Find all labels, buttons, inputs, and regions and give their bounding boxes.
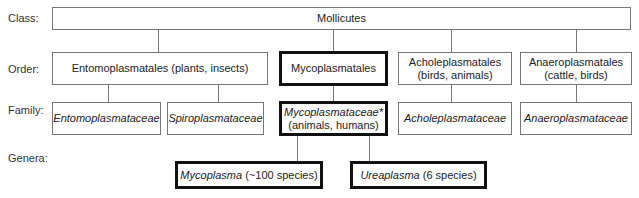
order-box-entomoplasmatales: Entomoplasmatales (plants, insects) bbox=[52, 52, 268, 85]
connector-line bbox=[576, 84, 577, 102]
rank-label-class: Class: bbox=[8, 12, 39, 24]
order-name: Acholeplasmatales bbox=[409, 56, 501, 69]
genus-name: Ureaplasma bbox=[360, 169, 419, 182]
connector-line bbox=[369, 135, 370, 162]
family-box-anaeroplasmataceae: Anaeroplasmataceae bbox=[520, 102, 632, 135]
rank-label-family: Family: bbox=[8, 104, 43, 116]
connector-line bbox=[333, 30, 334, 52]
order-hosts: (birds, animals) bbox=[417, 69, 492, 82]
class-box-mollicutes: Mollicutes bbox=[52, 7, 631, 30]
order-name: Anaeroplasmatales bbox=[529, 56, 623, 69]
connector-line bbox=[108, 84, 109, 102]
order-box-acholeplasmatales: Acholeplasmatales (birds, animals) bbox=[398, 52, 512, 85]
class-name: Mollicutes bbox=[317, 12, 366, 25]
family-box-spiroplasmataceae: Spiroplasmataceae bbox=[167, 102, 264, 135]
connector-line bbox=[451, 30, 452, 52]
family-box-mycoplasmataceae: Mycoplasmataceae* (animals, humans) bbox=[279, 101, 388, 136]
genus-box-mycoplasma: Mycoplasma (~100 species) bbox=[175, 161, 323, 189]
connector-line bbox=[451, 84, 452, 102]
connector-line bbox=[218, 84, 219, 102]
family-box-acholeplasmataceae: Acholeplasmataceae bbox=[398, 102, 512, 135]
rank-label-genera: Genera: bbox=[8, 152, 48, 164]
genus-detail: (~100 species) bbox=[245, 169, 317, 182]
genus-detail: (6 species) bbox=[423, 169, 477, 182]
genus-box-ureaplasma: Ureaplasma (6 species) bbox=[350, 161, 487, 189]
order-hosts: (cattle, birds) bbox=[544, 69, 608, 82]
family-name: Mycoplasmataceae* bbox=[284, 106, 383, 119]
connector-line bbox=[158, 30, 159, 52]
family-hosts: (animals, humans) bbox=[288, 119, 378, 132]
family-name: Spiroplasmataceae bbox=[168, 112, 262, 125]
order-box-mycoplasmatales: Mycoplasmatales bbox=[279, 51, 388, 86]
connector-line bbox=[297, 135, 298, 162]
connector-line bbox=[576, 30, 577, 52]
order-name: Mycoplasmatales bbox=[291, 62, 376, 75]
genus-name: Mycoplasma bbox=[180, 169, 242, 182]
family-name: Acholeplasmataceae bbox=[404, 112, 506, 125]
order-name: Entomoplasmatales (plants, insects) bbox=[72, 62, 249, 75]
family-name: Anaeroplasmataceae bbox=[524, 112, 628, 125]
family-name: Entomoplasmataceae bbox=[53, 112, 159, 125]
order-box-anaeroplasmatales: Anaeroplasmatales (cattle, birds) bbox=[520, 52, 632, 85]
rank-label-order: Order: bbox=[8, 63, 39, 75]
family-box-entomoplasmataceae: Entomoplasmataceae bbox=[52, 102, 161, 135]
connector-line bbox=[333, 84, 334, 102]
